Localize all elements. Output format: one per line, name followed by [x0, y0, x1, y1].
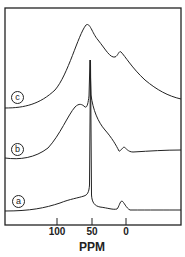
trace-label-a: a	[12, 195, 25, 208]
trace-c	[5, 24, 181, 108]
plot-frame	[5, 8, 181, 225]
tick-label-100: 100	[49, 226, 66, 237]
trace-b	[5, 60, 181, 159]
x-axis-title: PPM	[79, 240, 105, 254]
trace-label-c: c	[11, 91, 24, 104]
nmr-plot	[0, 0, 185, 257]
trace-a	[5, 60, 181, 211]
tick-label-50: 50	[86, 226, 97, 237]
trace-label-b: b	[11, 143, 24, 156]
tick-label-0: 0	[123, 226, 129, 237]
